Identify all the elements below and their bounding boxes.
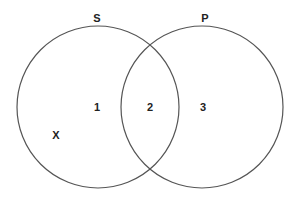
region-2-label: 2 [147,102,153,113]
x-marker: X [52,130,59,141]
circle-p-label: P [201,13,208,24]
region-3-label: 3 [200,102,206,113]
region-1-label: 1 [94,102,100,113]
circle-s-label: S [93,13,100,24]
